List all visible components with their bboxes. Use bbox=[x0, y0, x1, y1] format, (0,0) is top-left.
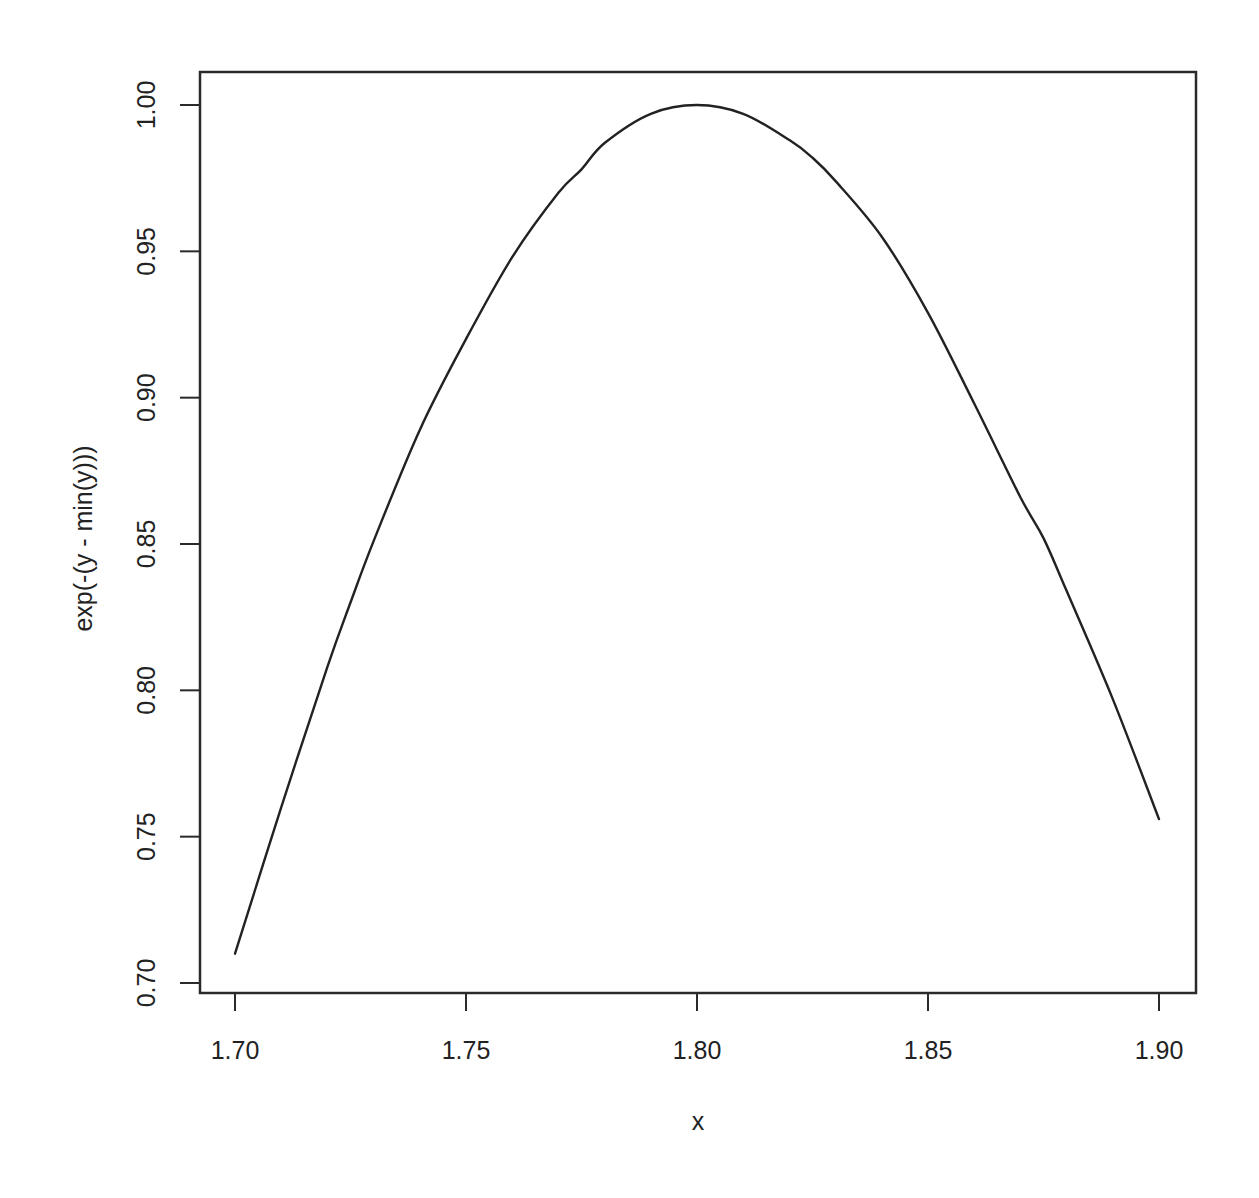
x-tick-label: 1.90 bbox=[1135, 1036, 1184, 1064]
x-tick-label: 1.85 bbox=[904, 1036, 953, 1064]
x-axis-title: x bbox=[692, 1107, 705, 1135]
y-tick-label: 0.95 bbox=[132, 227, 160, 276]
x-tick-label: 1.70 bbox=[211, 1036, 260, 1064]
line-chart: 1.701.751.801.851.90 0.700.750.800.850.9… bbox=[0, 0, 1259, 1198]
x-tick-label: 1.75 bbox=[442, 1036, 491, 1064]
y-axis-title: exp(-(y - min(y))) bbox=[69, 445, 97, 631]
y-tick-label: 0.90 bbox=[132, 373, 160, 422]
y-tick-label: 0.85 bbox=[132, 520, 160, 569]
y-tick-label: 0.80 bbox=[132, 666, 160, 715]
y-tick-label: 1.00 bbox=[132, 81, 160, 130]
y-tick-label: 0.75 bbox=[132, 812, 160, 861]
y-tick-label: 0.70 bbox=[132, 959, 160, 1008]
x-tick-label: 1.80 bbox=[673, 1036, 722, 1064]
